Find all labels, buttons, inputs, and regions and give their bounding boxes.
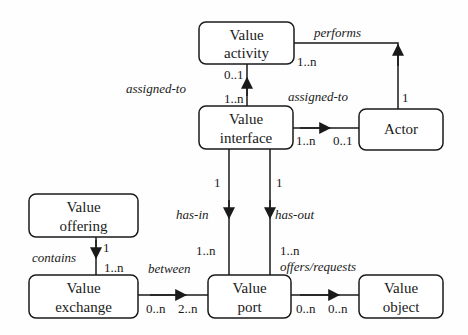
entity-label: offering xyxy=(59,218,108,234)
entity-label: Value xyxy=(66,199,100,215)
entity-value-activity: Value activity xyxy=(199,22,294,64)
entity-label: exchange xyxy=(55,299,112,315)
relation-label-between: between xyxy=(148,261,191,276)
cardinality-label: 0..1 xyxy=(224,67,244,82)
cardinality-label: 1 xyxy=(276,175,283,190)
cardinality-label: 0..n xyxy=(146,301,166,316)
entity-label: Value xyxy=(229,27,263,43)
relation-label-assigned-to-activity: assigned-to xyxy=(126,81,186,96)
cardinality-label: 0..n xyxy=(328,301,348,316)
entity-label: port xyxy=(237,299,262,315)
entity-label: interface xyxy=(220,130,273,146)
cardinality-label: 1..n xyxy=(297,54,317,69)
relation-label-contains: contains xyxy=(32,250,76,265)
relation-label-has-in: has-in xyxy=(176,207,209,222)
relation-label-performs: performs xyxy=(313,25,361,40)
cardinality-label: 1 xyxy=(402,90,409,105)
e3value-ontology-diagram: Value activity Value interface Actor Val… xyxy=(0,0,468,335)
cardinality-label: 1..n xyxy=(104,260,124,275)
entity-label: activity xyxy=(224,45,269,61)
entity-label: Value xyxy=(384,280,418,296)
relation-label-has-out: has-out xyxy=(275,207,314,222)
entity-label: Value xyxy=(232,280,266,296)
cardinality-label: 0..n xyxy=(296,301,316,316)
cardinality-label: 1 xyxy=(214,175,221,190)
cardinality-label: 1 xyxy=(103,240,110,255)
cardinality-label: 1..n xyxy=(280,243,300,258)
cardinality-label: 0..1 xyxy=(333,133,353,148)
entity-label: object xyxy=(383,299,420,315)
entity-label: Actor xyxy=(384,121,418,137)
cardinality-label: 1..n xyxy=(224,91,244,106)
entity-actor: Actor xyxy=(359,109,443,150)
cardinality-label: 2..n xyxy=(178,301,198,316)
relation-label-assigned-to-actor: assigned-to xyxy=(288,89,348,104)
entity-value-interface: Value interface xyxy=(199,106,293,149)
cardinality-label: 1..n xyxy=(196,243,216,258)
entity-value-offering: Value offering xyxy=(29,194,138,237)
entity-label: Value xyxy=(229,111,263,127)
entity-label: Value xyxy=(66,280,100,296)
entity-value-object: Value object xyxy=(359,275,443,318)
entity-value-port: Value port xyxy=(208,275,291,318)
relation-label-offers-requests: offers/requests xyxy=(280,259,356,274)
entity-value-exchange: Value exchange xyxy=(29,275,138,318)
cardinality-label: 1..n xyxy=(296,133,316,148)
